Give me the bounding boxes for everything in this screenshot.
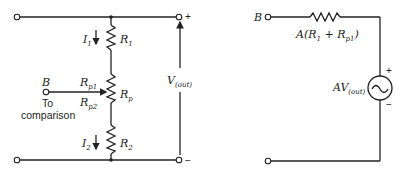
label-minus-left: −: [185, 155, 191, 166]
sine-wave-icon: [372, 86, 388, 93]
top-left-terminal: [14, 14, 20, 20]
label-r2: R2: [119, 137, 133, 152]
bottom-left-terminal: [14, 157, 20, 163]
circuit-diagram: I1 R1 Rp1 Rp Rp2 R2 I2 B To comparison V…: [0, 0, 400, 173]
label-b-left: B: [41, 76, 50, 89]
label-resistor-equivalent: A(R1 + Rp1): [295, 28, 359, 43]
label-b-right: B: [253, 11, 262, 24]
bottom-right-terminal: [176, 157, 182, 163]
label-comparison: comparison: [21, 109, 75, 121]
label-source-av-out: AV(out): [332, 81, 366, 96]
equivalent-circuit: B A(R1 + Rp1) AV(out) + −: [253, 11, 392, 164]
label-plus-right: +: [386, 65, 392, 76]
b-terminal-right: [265, 14, 271, 20]
label-vout: V(out): [167, 74, 192, 89]
label-rp2: Rp2: [79, 96, 98, 111]
label-i1: I1: [82, 33, 92, 48]
label-minus-right: −: [386, 99, 392, 110]
top-right-terminal: [176, 14, 182, 20]
resistor-r2: [107, 125, 115, 154]
resistor-r1: [107, 25, 115, 50]
label-to: To: [42, 97, 53, 109]
voltage-divider-circuit: I1 R1 Rp1 Rp Rp2 R2 I2 B To comparison V…: [14, 11, 192, 166]
b-terminal: [43, 89, 49, 95]
label-rp1: Rp1: [79, 76, 97, 91]
resistor-equivalent: [310, 13, 340, 21]
bottom-terminal-right: [265, 158, 271, 164]
potentiometer-rp: [107, 74, 115, 103]
label-r1: R1: [119, 33, 133, 48]
label-rp: Rp: [119, 88, 133, 103]
label-i2: I2: [81, 137, 91, 152]
label-plus-left: +: [185, 11, 191, 22]
